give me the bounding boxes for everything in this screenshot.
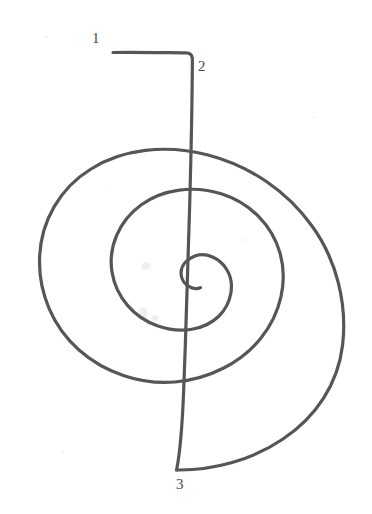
paper-fleck [45, 36, 47, 38]
paper-fleck [313, 116, 315, 118]
paper-fleck [242, 239, 244, 241]
paper-background [0, 0, 372, 514]
point-label-3: 3 [176, 477, 184, 492]
paper-fleck [62, 451, 64, 453]
pencil-smudge [152, 315, 159, 321]
point-label-1: 1 [92, 31, 100, 46]
spiral-diagram-figure [0, 0, 372, 514]
paper-fleck [109, 187, 111, 189]
point-label-2: 2 [198, 59, 206, 74]
